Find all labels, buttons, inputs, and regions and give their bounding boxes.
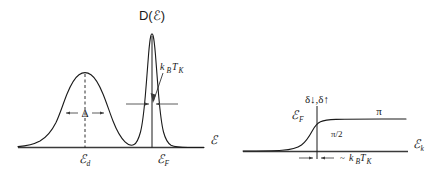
d-level-tick-sub: d	[87, 159, 91, 168]
kondo-label-group: k B T K	[160, 61, 185, 75]
figure-canvas: D(ℰ) ℰ Δ	[0, 0, 440, 178]
right-width-kb-base: k	[349, 152, 354, 163]
delta-label: Δ	[81, 107, 88, 119]
phase-shift-axis-label: δ↓,δ↑	[305, 93, 329, 105]
left-x-axis-label: ℰ	[210, 133, 219, 147]
density-of-states-panel: D(ℰ) ℰ Δ	[18, 8, 219, 168]
right-x-axis-label-sub: k	[421, 144, 425, 153]
pi-plateau-label: π	[376, 105, 382, 117]
kondo-label-kb-sub: B	[167, 66, 172, 75]
kondo-leader-arrowhead	[151, 93, 156, 103]
right-width-annotation: ~ k B T K	[299, 152, 373, 166]
right-width-tilde: ~	[340, 153, 345, 163]
delta-width-annotation: Δ	[66, 107, 104, 119]
dos-curve	[18, 34, 204, 148]
left-y-axis-label: D(ℰ)	[139, 8, 165, 23]
right-fermi-label: ℰ F	[291, 108, 304, 124]
fermi-tick-label: ℰ F	[157, 152, 170, 168]
kondo-width-annotation: k B T K	[126, 61, 185, 104]
phase-shift-curve	[243, 119, 406, 151]
phase-shift-axis-label-text: δ↓,δ↑	[305, 93, 329, 105]
fermi-tick-sub: F	[164, 159, 170, 168]
right-width-tk-sub: K	[366, 157, 373, 166]
right-width-label-group: ~ k B T K	[340, 152, 373, 166]
kondo-label-tk-sub: K	[178, 66, 185, 75]
phase-shift-panel: δ↓,δ↑ ℰ F π π/2 ~ k B T	[243, 93, 425, 166]
d-level-tick-label: ℰ d	[79, 152, 91, 168]
physics-figure: D(ℰ) ℰ Δ	[0, 0, 440, 178]
right-x-axis-label: ℰ k	[413, 137, 425, 153]
kondo-label-kb-base: k	[160, 61, 165, 72]
right-fermi-label-sub: F	[298, 115, 304, 124]
pi-half-label: π/2	[331, 129, 343, 139]
